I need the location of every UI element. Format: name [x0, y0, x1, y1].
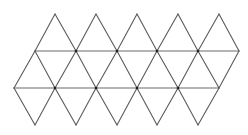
top-triangle-edge: [117, 14, 137, 51]
top-triangle-edge: [198, 14, 219, 51]
bottom-triangle-edge: [14, 88, 35, 125]
bottom-triangle-edge: [96, 88, 117, 125]
vertex-dot: [156, 50, 159, 53]
vertex-dot: [116, 50, 119, 53]
top-triangle-edge: [35, 14, 55, 51]
middle-band-edge: [35, 51, 55, 88]
bottom-triangle-edge: [198, 88, 219, 125]
middle-band-edge: [96, 51, 117, 88]
vertex-dot: [95, 87, 98, 90]
middle-band-edge: [14, 51, 35, 88]
vertex-dot: [54, 87, 57, 90]
middle-band-edge: [178, 51, 198, 88]
bottom-triangle-edge: [35, 88, 55, 125]
top-triangle-edge: [157, 14, 178, 51]
vertex-dot: [177, 87, 180, 90]
middle-band-edge: [117, 51, 137, 88]
icosahedron-net-diagram: [0, 0, 248, 135]
middle-band-edge: [219, 51, 239, 88]
vertex-dot: [197, 50, 200, 53]
top-triangle-edge: [219, 14, 239, 51]
vertex-dot: [136, 87, 139, 90]
bottom-triangle-edge: [137, 88, 157, 125]
middle-band-edge: [198, 51, 219, 88]
top-triangle-edge: [178, 14, 198, 51]
bottom-triangle-edge: [178, 88, 198, 125]
top-triangle-edge: [137, 14, 157, 51]
middle-band-edge: [157, 51, 178, 88]
net-canvas: [0, 0, 248, 135]
top-triangle-edge: [76, 14, 96, 51]
bottom-triangle-edge: [117, 88, 137, 125]
bottom-triangle-edge: [76, 88, 96, 125]
bottom-triangle-edge: [157, 88, 178, 125]
middle-band-edge: [55, 51, 76, 88]
middle-band-edge: [76, 51, 96, 88]
top-triangle-edge: [55, 14, 76, 51]
middle-band-edge: [137, 51, 157, 88]
vertex-dot: [75, 50, 78, 53]
bottom-triangle-edge: [55, 88, 76, 125]
top-triangle-edge: [96, 14, 117, 51]
